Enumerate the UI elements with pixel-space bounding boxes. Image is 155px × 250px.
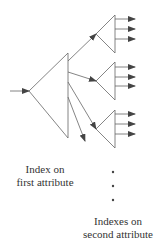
second-index-label-line1: Indexes on	[73, 215, 155, 228]
first-attribute-index-triangle	[29, 53, 68, 138]
second-attribute-index-label: Indexes on second attribute	[73, 215, 155, 241]
continuation-dot	[112, 171, 114, 173]
second-index-label-line2: second attribute	[73, 228, 155, 241]
continuation-dot	[112, 185, 114, 187]
second-attribute-index-triangle-3	[96, 110, 115, 148]
pointer-arrow-1	[68, 34, 96, 61]
pointer-arrow-2	[68, 72, 96, 81]
pointer-arrow-4	[68, 97, 85, 141]
pointer-arrow-3	[68, 82, 96, 129]
first-index-label-line2: first attribute	[0, 176, 90, 189]
second-attribute-index-triangle-2	[96, 62, 115, 100]
first-attribute-index-label: Index on first attribute	[0, 163, 90, 189]
index-diagram	[0, 0, 155, 250]
continuation-dot	[112, 199, 114, 201]
first-index-label-line1: Index on	[0, 163, 90, 176]
second-attribute-index-triangle-1	[96, 15, 115, 53]
